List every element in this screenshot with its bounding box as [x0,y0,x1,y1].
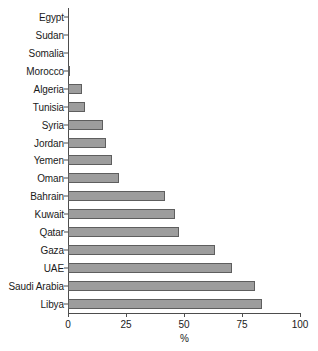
bar-row: Oman [0,169,318,187]
bar-row: Morocco [0,62,318,80]
category-label: Egypt [39,11,64,22]
category-label: Bahrain [30,191,64,202]
bar-row: Somalia [0,44,318,62]
category-label: Kuwait [35,209,64,220]
bar-row: Gaza [0,241,318,259]
bar-chart: EgyptSudanSomaliaMoroccoAlgeriaTunisiaSy… [0,0,318,351]
bar-row: Saudi Arabia [0,277,318,295]
y-tick-mark [64,16,68,17]
bar [68,209,175,219]
category-label: Morocco [26,65,64,76]
x-tick-mark [126,313,127,317]
category-label: Somalia [29,47,64,58]
bar [68,263,232,273]
x-tick-label: 75 [236,319,247,331]
bar [68,155,112,165]
x-tick-mark [68,313,69,317]
x-tick-mark [242,313,243,317]
category-label: Libya [41,299,64,310]
bar [68,84,82,94]
bar-row: Libya [0,295,318,313]
bar [68,191,165,201]
bar [68,227,179,237]
x-tick-label: 100 [292,319,309,331]
bar-row: UAE [0,259,318,277]
bar-row: Kuwait [0,205,318,223]
bar-rows: EgyptSudanSomaliaMoroccoAlgeriaTunisiaSy… [0,8,318,313]
bar [68,66,70,76]
x-tick-mark [184,313,185,317]
bar-row: Bahrain [0,187,318,205]
y-tick-mark [64,34,68,35]
x-tick-label: 0 [65,319,71,331]
category-label: Tunisia [33,101,64,112]
bar [68,299,262,309]
bar-row: Tunisia [0,98,318,116]
category-label: Oman [37,173,64,184]
bar [68,245,215,255]
bar-row: Syria [0,116,318,134]
category-label: Sudan [36,29,64,40]
category-label: Saudi Arabia [8,281,64,292]
bar-row: Jordan [0,134,318,152]
bar [68,120,103,130]
bar-row: Qatar [0,223,318,241]
x-tick-label: 25 [120,319,131,331]
category-label: Algeria [34,83,64,94]
bar-row: Egypt [0,8,318,26]
category-label: Jordan [34,137,64,148]
bar [68,173,119,183]
bar [68,281,255,291]
bar [68,102,85,112]
bar-row: Yemen [0,152,318,170]
category-label: Gaza [40,245,64,256]
category-label: UAE [44,263,64,274]
category-label: Yemen [34,155,64,166]
category-label: Qatar [39,227,64,238]
x-tick-label: 50 [178,319,189,331]
bar-row: Sudan [0,26,318,44]
bar [68,138,106,148]
bar-row: Algeria [0,80,318,98]
x-axis-title: % [68,333,301,345]
y-tick-mark [64,52,68,53]
category-label: Syria [42,119,64,130]
x-tick-mark [300,313,301,317]
